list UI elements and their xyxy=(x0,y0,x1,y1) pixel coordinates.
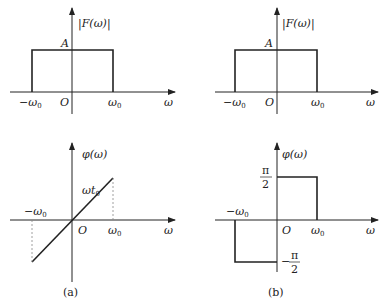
svg-text:π: π xyxy=(262,164,269,177)
diagram-canvas: |F(ω)| A O −ω0 ω0 ω φ(ω) ωt0 −ω0 O ω0 ω … xyxy=(0,0,383,305)
pos-cutoff-label: ω0 xyxy=(108,224,121,238)
svg-text:2: 2 xyxy=(262,178,269,191)
x-axis-label: ω xyxy=(164,224,173,237)
magnitude-rect xyxy=(235,50,317,92)
neg-level-fraction: − π 2 xyxy=(281,249,300,276)
panel-a-magnitude-plot: |F(ω)| A O −ω0 ω0 ω xyxy=(10,8,175,114)
amplitude-label: A xyxy=(60,37,69,50)
x-axis-label: ω xyxy=(366,224,375,237)
neg-cutoff-label: −ω0 xyxy=(226,205,249,219)
neg-cutoff-label: −ω0 xyxy=(19,96,42,110)
pos-level-fraction: π 2 xyxy=(260,164,272,191)
negative-phase-step xyxy=(235,220,277,262)
y-axis-label: φ(ω) xyxy=(282,148,307,161)
origin-label: O xyxy=(78,224,87,237)
pos-cutoff-label: ω0 xyxy=(108,96,121,110)
svg-text:2: 2 xyxy=(291,263,298,276)
caption-b: (b) xyxy=(268,286,284,299)
pos-cutoff-label: ω0 xyxy=(311,224,324,238)
panel-b-phase-plot: φ(ω) π 2 − π 2 −ω0 O ω0 ω (b) xyxy=(215,143,378,299)
amplitude-label: A xyxy=(264,37,273,50)
x-axis-label: ω xyxy=(366,96,375,109)
panel-a-phase-plot: φ(ω) ωt0 −ω0 O ω0 ω (a) xyxy=(10,143,175,299)
x-axis-label: ω xyxy=(164,96,173,109)
svg-text:π: π xyxy=(291,249,298,262)
y-axis-label: |F(ω)| xyxy=(78,17,111,31)
caption-a: (a) xyxy=(63,286,78,299)
origin-label: O xyxy=(282,224,291,237)
neg-cutoff-label: −ω0 xyxy=(223,96,246,110)
y-axis-label: |F(ω)| xyxy=(282,17,315,31)
svg-text:−: − xyxy=(281,255,290,268)
pos-cutoff-label: ω0 xyxy=(311,96,324,110)
origin-label: O xyxy=(265,96,274,109)
y-axis-label: φ(ω) xyxy=(82,148,107,161)
neg-cutoff-label: −ω0 xyxy=(24,205,47,219)
panel-b-magnitude-plot: |F(ω)| A O −ω0 ω0 ω xyxy=(215,8,378,114)
slope-label: ωt0 xyxy=(82,184,100,198)
origin-label: O xyxy=(60,96,69,109)
positive-phase-step xyxy=(277,177,317,220)
